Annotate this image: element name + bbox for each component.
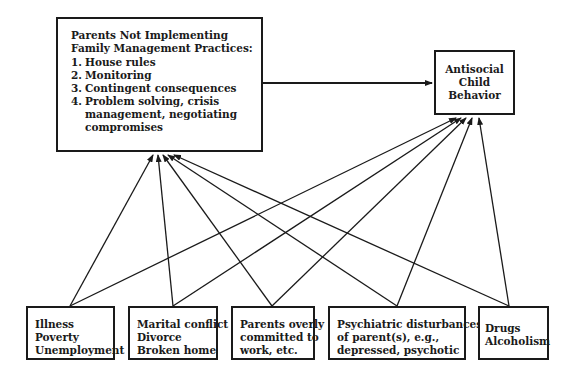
stressor-line: Illness bbox=[35, 318, 113, 331]
arrow-drugs-to-outcome bbox=[479, 118, 509, 306]
stressor-line: Marital conflict bbox=[137, 318, 216, 331]
practice-item: management, negotiating bbox=[71, 108, 253, 121]
stressor-line: Parents overly bbox=[240, 318, 313, 331]
stressor-line: Drugs bbox=[485, 322, 547, 335]
practice-label: management, negotiating bbox=[85, 108, 237, 121]
stressor-box-illness: Illness Poverty Unemployment bbox=[26, 306, 115, 360]
stressor-line: Poverty bbox=[35, 331, 113, 344]
stressor-line: of parent(s), e.g., bbox=[337, 331, 464, 344]
stressor-box-work: Parents overly committed to work, etc. bbox=[231, 306, 315, 360]
practice-number: 3. bbox=[71, 82, 85, 95]
outcome-line3: Behavior bbox=[445, 89, 504, 102]
stressor-line: Divorce bbox=[137, 331, 216, 344]
practice-label: Monitoring bbox=[85, 69, 152, 82]
main-box-title-line2: Family Management Practices: bbox=[71, 42, 253, 55]
arrow-work-to-main bbox=[163, 155, 272, 306]
stressor-line: Broken home bbox=[137, 344, 216, 357]
practice-item: 2.Monitoring bbox=[71, 69, 253, 82]
practice-item: 1.House rules bbox=[71, 56, 253, 69]
practice-label: House rules bbox=[85, 56, 156, 69]
practice-label: Contingent consequences bbox=[85, 82, 237, 95]
practice-item: 3.Contingent consequences bbox=[71, 82, 253, 95]
practice-label: Problem solving, crisis bbox=[85, 95, 219, 108]
stressor-box-psychiatric: Psychiatric disturbances of parent(s), e… bbox=[328, 306, 466, 360]
practice-number bbox=[71, 108, 85, 121]
stressor-line: Psychiatric disturbances bbox=[337, 318, 464, 331]
stressor-line: Unemployment bbox=[35, 344, 113, 357]
stressor-box-marital: Marital conflict Divorce Broken home bbox=[128, 306, 218, 360]
arrow-psych-to-outcome bbox=[397, 118, 472, 306]
stressor-box-drugs: Drugs Alcoholism bbox=[478, 306, 549, 360]
family-management-box: Parents Not Implementing Family Manageme… bbox=[56, 17, 263, 152]
arrow-illness-to-main bbox=[70, 155, 153, 306]
practice-number: 4. bbox=[71, 95, 85, 108]
practice-label: compromises bbox=[85, 121, 163, 134]
main-box-title-line1: Parents Not Implementing bbox=[71, 29, 253, 42]
antisocial-behavior-box: Antisocial Child Behavior bbox=[434, 50, 515, 115]
practices-list: 1.House rules 2.Monitoring 3.Contingent … bbox=[71, 56, 253, 134]
stressor-line: committed to bbox=[240, 331, 313, 344]
practice-number bbox=[71, 121, 85, 134]
practice-item: compromises bbox=[71, 121, 253, 134]
outcome-line1: Antisocial bbox=[445, 63, 504, 76]
arrow-psych-to-main bbox=[168, 155, 397, 306]
stressor-line: depressed, psychotic bbox=[337, 344, 464, 357]
practice-number: 1. bbox=[71, 56, 85, 69]
arrow-marital-to-main bbox=[158, 155, 173, 306]
practice-item: 4.Problem solving, crisis bbox=[71, 95, 253, 108]
stressor-line: Alcoholism bbox=[485, 335, 547, 348]
practice-number: 2. bbox=[71, 69, 85, 82]
stressor-line: work, etc. bbox=[240, 344, 313, 357]
outcome-line2: Child bbox=[445, 76, 504, 89]
